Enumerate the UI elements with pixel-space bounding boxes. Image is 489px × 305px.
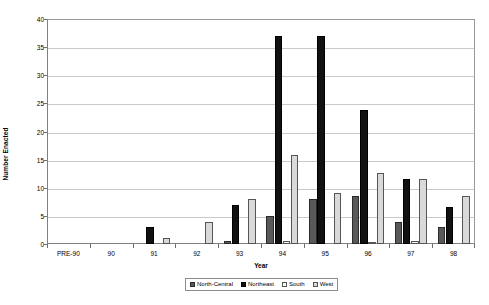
bar	[438, 227, 446, 244]
bar	[334, 193, 342, 244]
legend-label: Northeast	[248, 281, 274, 288]
bar	[248, 199, 256, 244]
x-tick-label: 98	[428, 249, 480, 258]
y-tick-label: 0	[22, 241, 44, 248]
bars-layer	[47, 19, 475, 244]
y-tick-label: 20	[22, 128, 44, 135]
x-tick-mark	[133, 244, 134, 248]
y-tick-label: 25	[22, 100, 44, 107]
bar	[291, 155, 299, 244]
legend-swatch-icon	[241, 282, 246, 287]
legend-item-west[interactable]: West	[313, 281, 334, 288]
x-tick-mark	[432, 244, 433, 248]
x-tick-mark	[175, 244, 176, 248]
x-axis-tick-labels: PRE-90909192939495969798	[47, 249, 475, 261]
x-tick-mark	[347, 244, 348, 248]
bar	[377, 173, 385, 244]
x-tick-mark	[474, 244, 475, 248]
legend-label: South	[289, 281, 305, 288]
legend-label: North-Central	[197, 281, 233, 288]
x-tick-mark	[304, 244, 305, 248]
bar	[462, 196, 470, 244]
y-tick-label: 40	[22, 16, 44, 23]
bar	[275, 36, 283, 244]
y-tick-label: 30	[22, 72, 44, 79]
y-axis-tick-labels: 0510152025303540	[20, 19, 44, 244]
bar	[205, 222, 213, 245]
bar	[419, 179, 427, 244]
y-tick-label: 15	[22, 156, 44, 163]
bar	[266, 216, 274, 244]
y-tick-label: 5	[22, 212, 44, 219]
x-tick-mark	[389, 244, 390, 248]
x-tick-mark	[261, 244, 262, 248]
x-tick-mark	[218, 244, 219, 248]
bar-chart: Number Enacted 0510152025303540 PRE-9090…	[0, 0, 489, 305]
y-axis-title-text: Number Enacted	[2, 94, 9, 214]
y-tick-label: 10	[22, 184, 44, 191]
bar	[309, 199, 317, 244]
y-axis-title: Number Enacted	[2, 0, 9, 96]
y-tick-label: 35	[22, 44, 44, 51]
chart-legend: North-CentralNortheastSouthWest	[185, 278, 338, 291]
bar	[352, 196, 360, 244]
bar	[403, 179, 411, 244]
bar	[395, 222, 403, 245]
bar	[446, 207, 454, 244]
legend-swatch-icon	[282, 282, 287, 287]
legend-item-northeast[interactable]: Northeast	[241, 281, 274, 288]
legend-label: West	[320, 281, 334, 288]
x-axis-tick-marks	[47, 244, 475, 248]
legend-item-north-central[interactable]: North-Central	[190, 281, 233, 288]
x-tick-mark	[47, 244, 48, 248]
bar	[232, 205, 240, 244]
x-tick-mark	[90, 244, 91, 248]
bar	[146, 227, 154, 244]
legend-item-south[interactable]: South	[282, 281, 305, 288]
legend-swatch-icon	[190, 282, 195, 287]
x-axis-title: Year	[47, 262, 475, 269]
bar	[317, 36, 325, 244]
legend-swatch-icon	[313, 282, 318, 287]
bar	[360, 110, 368, 244]
